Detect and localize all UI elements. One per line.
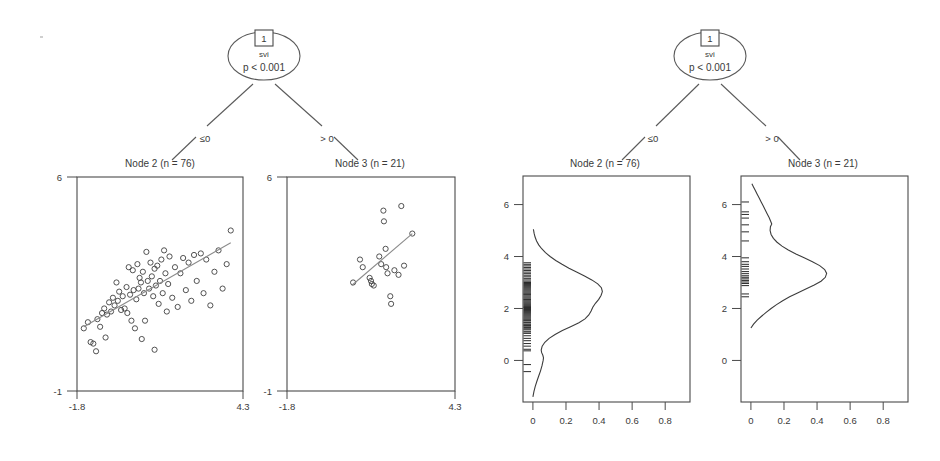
right-edge-label-gt0: > 0 — [765, 133, 778, 144]
scatter-point — [191, 252, 196, 257]
scatter-point — [148, 260, 153, 265]
left-node3-xlabel-left: -1.8 — [279, 401, 295, 412]
scatter-point — [93, 349, 98, 354]
right-node2-panel: Node 2 (n = 76) 0246 00.20.40.60.8 — [504, 158, 690, 426]
right-node3-plot-box — [741, 176, 908, 402]
scatter-point — [392, 268, 397, 273]
y-axis-tick-label: 4 — [722, 251, 727, 262]
scatter-point — [156, 301, 161, 306]
right-edge-line-right — [721, 84, 766, 126]
scatter-point — [399, 203, 404, 208]
right-panel-group: 1 svi p < 0.001 ≤0 > 0 Node 2 (n = 76) 0… — [504, 30, 908, 426]
left-node3-plot-box — [287, 177, 455, 391]
right-node2-x-axis: 00.20.40.60.8 — [530, 402, 672, 426]
x-axis-tick-label: 0 — [530, 415, 535, 426]
left-node2-ylabel-top: 6 — [57, 172, 62, 183]
right-edge-line-left — [656, 84, 699, 126]
scatter-point — [117, 289, 122, 294]
right-node3-panel: Node 3 (n = 21) 0246 00.20.40.60.8 — [722, 158, 908, 426]
left-edge-line-right-lower — [334, 137, 358, 160]
scatter-point — [132, 326, 137, 331]
left-node2-panel: Node 2 (n = 76) 6 -1 -1.8 4.3 — [54, 158, 250, 412]
x-axis-tick-label: 0.6 — [844, 415, 857, 426]
scatter-point — [194, 278, 199, 283]
scatter-point — [161, 248, 166, 253]
right-tree-edges — [622, 84, 800, 160]
left-node2-xlabel-left: -1.8 — [69, 401, 85, 412]
scatter-point — [367, 275, 372, 280]
left-node2-title: Node 2 (n = 76) — [125, 158, 195, 169]
left-node2-fit-line — [84, 243, 231, 327]
right-edge-line-right-lower — [778, 137, 800, 160]
scatter-point — [107, 300, 112, 305]
scatter-point — [224, 262, 229, 267]
y-axis-tick-label: 4 — [504, 251, 509, 262]
scan-speck — [40, 36, 43, 38]
scatter-point — [115, 298, 120, 303]
left-edge-label-le0: ≤0 — [200, 133, 211, 144]
scatter-point — [110, 295, 115, 300]
x-axis-tick-label: 0.2 — [559, 415, 572, 426]
left-root-variable-label: svi — [259, 50, 269, 59]
figure-root: 1 svi p < 0.001 ≤0 > 0 Node 2 (n = 76) 6… — [0, 0, 940, 461]
right-node3-y-axis: 0246 — [722, 199, 741, 366]
scatter-point — [102, 306, 107, 311]
right-edge-line-left-lower — [622, 137, 645, 160]
scatter-point — [172, 265, 177, 270]
scatter-point — [401, 263, 406, 268]
scatter-point — [159, 257, 164, 262]
right-root-node[interactable]: 1 svi p < 0.001 — [674, 30, 746, 80]
scatter-point — [381, 208, 386, 213]
left-root-node[interactable]: 1 svi p < 0.001 — [228, 30, 300, 80]
right-node3-density-curve — [751, 184, 827, 328]
left-edge-label-gt0: > 0 — [320, 133, 333, 144]
scatter-point — [127, 292, 132, 297]
scatter-point — [160, 291, 165, 296]
scatter-point — [112, 303, 117, 308]
left-root-pvalue-label: p < 0.001 — [243, 62, 285, 73]
x-axis-tick-label: 0.8 — [877, 415, 890, 426]
scatter-point — [166, 281, 171, 286]
scatter-point — [228, 228, 233, 233]
scatter-point — [142, 318, 147, 323]
scatter-point — [167, 254, 172, 259]
left-edge-line-left — [207, 84, 253, 126]
scatter-point — [170, 295, 175, 300]
scatter-point — [396, 272, 401, 277]
scatter-point — [152, 347, 157, 352]
scatter-point — [385, 271, 390, 276]
scatter-point — [175, 304, 180, 309]
scatter-point — [384, 265, 389, 270]
scatter-point — [181, 255, 186, 260]
y-axis-tick-label: 2 — [722, 303, 727, 314]
right-node2-title: Node 2 (n = 76) — [570, 158, 640, 169]
scatter-point — [98, 324, 103, 329]
y-axis-tick-label: 0 — [722, 355, 727, 366]
scatter-point — [381, 219, 386, 224]
tree-figure-svg: 1 svi p < 0.001 ≤0 > 0 Node 2 (n = 76) 6… — [0, 0, 940, 461]
left-node3-panel: Node 3 (n = 21) 6 -1 -1.8 4.3 — [264, 158, 462, 412]
left-node2-scatter-points — [81, 228, 233, 354]
scatter-point — [201, 291, 206, 296]
y-axis-tick-label: 6 — [722, 199, 727, 210]
left-node3-ylabel-top: 6 — [267, 172, 272, 183]
left-node3-scatter-points — [351, 203, 415, 306]
right-root-pvalue-label: p < 0.001 — [689, 62, 731, 73]
scatter-point — [377, 254, 382, 259]
left-edge-line-right — [275, 84, 322, 126]
scatter-point — [189, 298, 194, 303]
scatter-point — [138, 280, 143, 285]
scatter-point — [145, 278, 150, 283]
right-node2-y-axis: 0246 — [504, 199, 523, 366]
right-node3-title: Node 3 (n = 21) — [788, 158, 858, 169]
scatter-point — [131, 288, 136, 293]
left-edge-line-left-lower — [172, 137, 196, 160]
right-root-id-label: 1 — [707, 33, 712, 44]
scatter-point — [139, 336, 144, 341]
right-edge-label-le0: ≤0 — [648, 133, 659, 144]
scatter-point — [198, 251, 203, 256]
scatter-point — [164, 309, 169, 314]
scatter-point — [144, 249, 149, 254]
scatter-point — [360, 265, 365, 270]
x-axis-tick-label: 0.6 — [626, 415, 639, 426]
